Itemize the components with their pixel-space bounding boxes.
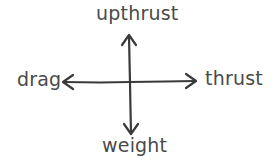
label-upthrust: upthrust	[96, 4, 178, 23]
down-arrow-icon	[124, 82, 138, 134]
up-arrow-icon	[122, 35, 136, 82]
force-diagram: upthrust drag thrust weight	[0, 0, 276, 166]
label-weight: weight	[102, 136, 167, 155]
left-arrow-icon	[63, 75, 130, 89]
right-arrow-icon	[130, 74, 196, 88]
label-thrust: thrust	[205, 69, 263, 88]
label-drag: drag	[17, 70, 61, 89]
